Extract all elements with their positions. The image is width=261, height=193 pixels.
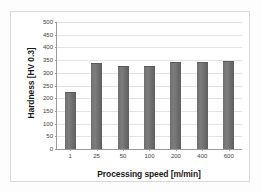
x-tick-mark xyxy=(123,149,124,151)
y-tick-label: 50 xyxy=(46,133,53,139)
y-tick-label: 200 xyxy=(43,95,53,101)
y-tick-mark xyxy=(55,149,57,150)
x-tick-mark xyxy=(176,149,177,151)
bar xyxy=(91,63,102,149)
bar xyxy=(197,62,208,149)
plot-area: 050100150200250300350400450500 125501002… xyxy=(56,22,242,150)
x-tick-mark xyxy=(202,149,203,151)
x-tick-mark xyxy=(229,149,230,151)
bar xyxy=(223,61,234,149)
x-axis-title: Processing speed [m/min] xyxy=(56,169,242,179)
x-tick-label: 50 xyxy=(120,153,127,159)
y-tick-label: 0 xyxy=(50,146,53,152)
x-tick-mark xyxy=(97,149,98,151)
x-tick-label: 400 xyxy=(197,153,207,159)
chart-figure: Hardness [HV 0.3] 0501001502002503003504… xyxy=(0,0,261,193)
y-tick-label: 500 xyxy=(43,19,53,25)
bar-slot: 600 xyxy=(216,22,242,149)
y-tick-label: 400 xyxy=(43,44,53,50)
x-tick-label: 100 xyxy=(144,153,154,159)
bar xyxy=(170,62,181,149)
y-tick-label: 350 xyxy=(43,57,53,63)
bar-slot: 50 xyxy=(110,22,136,149)
y-tick-label: 300 xyxy=(43,70,53,76)
x-tick-label: 25 xyxy=(93,153,100,159)
x-tick-label: 1 xyxy=(69,153,72,159)
chart-canvas: Hardness [HV 0.3] 0501001502002503003504… xyxy=(10,11,250,182)
y-tick-label: 450 xyxy=(43,32,53,38)
y-tick-label: 250 xyxy=(43,83,53,89)
bar-slot: 25 xyxy=(83,22,109,149)
bar-slot: 200 xyxy=(163,22,189,149)
y-tick-label: 150 xyxy=(43,108,53,114)
bar xyxy=(118,66,129,149)
bar-slot: 100 xyxy=(136,22,162,149)
bar xyxy=(65,92,76,149)
bar-slot: 400 xyxy=(189,22,215,149)
x-tick-mark xyxy=(70,149,71,151)
x-tick-label: 600 xyxy=(224,153,234,159)
x-tick-label: 200 xyxy=(171,153,181,159)
y-tick-label: 100 xyxy=(43,121,53,127)
x-tick-mark xyxy=(149,149,150,151)
y-axis-title: Hardness [HV 0.3] xyxy=(26,19,36,147)
bar-slot: 1 xyxy=(57,22,83,149)
bar xyxy=(144,66,155,149)
bars-layer: 12550100200400600 xyxy=(57,22,242,149)
